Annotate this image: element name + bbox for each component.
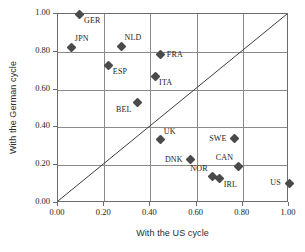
y-axis-tick-label: 1.00 (16, 7, 50, 17)
data-point-label: BEL (116, 105, 132, 114)
y-axis-tick-label: 0.00 (16, 196, 50, 206)
x-axis-tick-label: 1.00 (268, 207, 305, 217)
y-axis-tick-label: 0.40 (16, 120, 50, 130)
y-axis-title: With the German cycle (4, 13, 22, 202)
y-axis-tick-label: 0.60 (16, 83, 50, 93)
data-point-label: UK (164, 127, 176, 136)
x-axis-tick (196, 202, 197, 206)
y-axis-tick (53, 51, 57, 52)
data-point-label: IRL (224, 180, 238, 189)
data-point-label: ITA (159, 78, 172, 87)
diagonal-reference-line (58, 14, 287, 201)
data-point-label: FRA (167, 50, 183, 59)
y-axis-tick (53, 202, 57, 203)
x-axis-tick (103, 202, 104, 206)
data-point-label: ESP (113, 67, 127, 76)
data-point-label: CAN (216, 153, 234, 162)
y-axis-tick-label: 0.80 (16, 45, 50, 55)
y-axis-tick (53, 89, 57, 90)
x-axis-tick (288, 202, 289, 206)
x-axis-tick (242, 202, 243, 206)
data-point-label: JPN (75, 34, 89, 43)
data-point-label: SWE (209, 134, 227, 143)
plot-area: GERJPNNLDESPFRAITABELUKSWEDNKCANNORIRLUS (57, 13, 288, 202)
y-axis-tick-label: 0.20 (16, 158, 50, 168)
data-point-label: DNK (165, 155, 183, 164)
x-axis-tick-label: 0.80 (222, 207, 262, 217)
data-point-label: NOR (190, 164, 208, 173)
y-axis-tick (53, 164, 57, 165)
x-axis-tick-label: 0.00 (37, 207, 77, 217)
data-point-label: NLD (125, 33, 142, 42)
x-axis-tick-label: 0.60 (176, 207, 216, 217)
y-axis-tick (53, 13, 57, 14)
x-axis-tick (57, 202, 58, 206)
scatter-chart: With the German cycle With the US cycle … (0, 0, 305, 252)
y-axis-tick (53, 126, 57, 127)
data-point-label: US (270, 178, 281, 187)
data-point-label: GER (84, 16, 101, 25)
x-axis-tick-label: 0.40 (129, 207, 169, 217)
x-axis-tick (149, 202, 150, 206)
x-axis-tick-label: 0.20 (83, 207, 123, 217)
x-axis-title: With the US cycle (57, 228, 288, 238)
